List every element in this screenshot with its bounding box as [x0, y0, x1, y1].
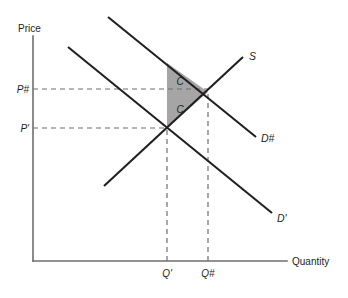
demand-new-curve-label: D# [261, 132, 275, 144]
price-tick-label-new: P# [17, 84, 30, 95]
quantity-tick-label-new: Q# [201, 268, 215, 279]
price-tick-label-old: P' [20, 123, 30, 134]
quantity-tick-label-old: Q' [162, 268, 173, 279]
demand-old-curve-label: D' [277, 212, 288, 224]
supply-curve-label: S [249, 50, 256, 62]
diagram-canvas: Price Quantity P# P' Q' Q# S D' D# C C [0, 0, 348, 298]
supply-demand-figure: Price Quantity P# P' Q' Q# S D' D# C C [0, 0, 348, 298]
x-axis-label: Quantity [292, 256, 329, 267]
surplus-label-upper: C [176, 76, 184, 87]
surplus-label-lower: C [176, 104, 184, 115]
y-axis-label: Price [18, 23, 41, 34]
